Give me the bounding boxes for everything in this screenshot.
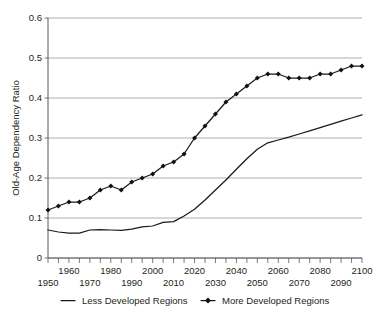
y-tick-label: 0.3 (29, 132, 42, 143)
y-tick-label: 0.2 (29, 172, 42, 183)
x-tick-label-upper: 2040 (226, 265, 247, 276)
old-age-dependency-ratio-chart: 00.10.20.30.40.50.6 19601980200020202040… (0, 0, 383, 325)
x-tick-label-upper: 2020 (184, 265, 205, 276)
x-tick-label-lower: 1950 (37, 277, 58, 288)
x-tick-label-upper: 1980 (100, 265, 121, 276)
x-tick-label-lower: 2050 (247, 277, 268, 288)
y-tick-label: 0.4 (29, 92, 42, 103)
legend-label-text: Less Developed Regions (82, 295, 188, 306)
x-tick-label-lower: 1970 (79, 277, 100, 288)
x-tick-label-upper: 1960 (58, 265, 79, 276)
x-tick-label-upper: 2100 (351, 265, 372, 276)
y-axis-title-text: Old-Age Dependency Ratio (10, 80, 21, 196)
figure-container: 00.10.20.30.40.50.6 19601980200020202040… (0, 0, 383, 325)
x-tick-label-lower: 2010 (163, 277, 184, 288)
y-tick-label: 0.5 (29, 52, 42, 63)
x-tick-label-lower: 2090 (330, 277, 351, 288)
y-axis-title: Old-Age Dependency Ratio (10, 80, 21, 196)
x-tick-label-upper: 2000 (142, 265, 163, 276)
x-tick-label-lower: 1990 (121, 277, 142, 288)
x-tick-label-lower: 2030 (205, 277, 226, 288)
y-tick-label: 0 (37, 252, 42, 263)
x-tick-label-lower: 2070 (289, 277, 310, 288)
x-tick-label-upper: 2080 (310, 265, 331, 276)
x-tick-label-upper: 2060 (268, 265, 289, 276)
y-tick-label: 0.6 (29, 12, 42, 23)
y-tick-label: 0.1 (29, 212, 42, 223)
legend-label-text: More Developed Regions (222, 295, 329, 306)
